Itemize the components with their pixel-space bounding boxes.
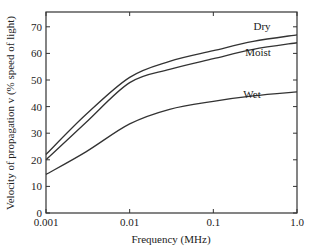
x-tick-label: 0.01 [120,216,139,228]
y-tick-label: 70 [31,21,43,33]
velocity-frequency-chart: 0102030405060700.0010.010.11.0 DryMoistW… [0,0,314,251]
plot-axes: 0102030405060700.0010.010.11.0 [31,12,304,228]
y-tick-label: 60 [31,47,43,59]
y-tick-label: 10 [31,180,43,192]
label-wet: Wet [243,88,260,100]
x-tick-label: 0.001 [34,216,59,228]
plot-frame [46,12,297,213]
x-tick-label: 1.0 [290,216,304,228]
label-dry: Dry [253,20,271,32]
y-tick-label: 50 [31,74,43,86]
x-axis-label: Frequency (MHz) [131,233,210,246]
y-tick-label: 20 [31,154,43,166]
y-tick-label: 40 [31,101,43,113]
y-axis-label: Velocity of propagation v (% speed of li… [4,16,17,210]
curve-wet [46,92,297,174]
x-tick-label: 0.1 [206,216,220,228]
curve-labels: DryMoistWet [243,20,271,100]
label-moist: Moist [245,46,271,58]
y-tick-label: 30 [31,127,43,139]
